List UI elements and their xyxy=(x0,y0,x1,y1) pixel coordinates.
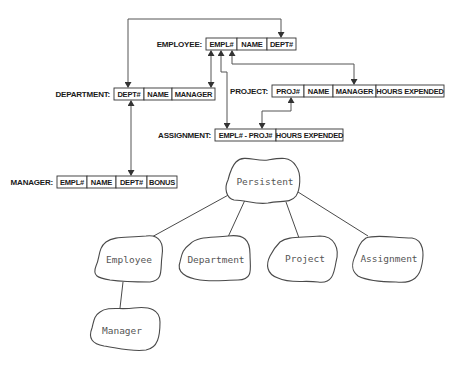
class-label: Manager xyxy=(102,325,142,336)
line-employee-manager xyxy=(120,282,123,308)
object-model-diagram: EMPLOYEE:EMPL#NAMEDEPT#DEPARTMENT:DEPT#N… xyxy=(0,0,457,370)
class-label: Assignment xyxy=(360,253,417,264)
class-node-department[interactable]: Department xyxy=(179,236,250,281)
line-persistent-employee xyxy=(150,193,232,238)
column-name: DEPT# xyxy=(117,90,141,99)
connector-employee-empl-assignment xyxy=(221,51,227,128)
connector-project-proj-assignment xyxy=(262,98,291,128)
column-name: EMPL# xyxy=(209,40,234,49)
class-label: Department xyxy=(187,254,244,265)
table-name-label: EMPLOYEE: xyxy=(157,40,202,49)
connector-dept-fk-employee xyxy=(128,19,281,87)
class-label: Project xyxy=(285,253,325,264)
class-node-persistent[interactable]: Persistent xyxy=(226,158,300,203)
column-name: NAME xyxy=(147,90,168,99)
column-name: PROJ# xyxy=(276,87,301,96)
column-name: DEPT# xyxy=(120,178,144,187)
table-manager[interactable]: MANAGER:EMPL#NAMEDEPT#BONUS xyxy=(11,176,177,188)
column-name: EMPL# - PROJ# xyxy=(219,131,274,140)
column-name: NAME xyxy=(308,87,329,96)
table-name-label: ASSIGNMENT: xyxy=(158,131,211,140)
line-persistent-department xyxy=(228,200,245,237)
table-department[interactable]: DEPARTMENT:DEPT#NAMEMANAGER xyxy=(55,88,215,100)
column-name: BONUS xyxy=(149,178,175,187)
column-name: NAME xyxy=(241,40,262,49)
class-node-assignment[interactable]: Assignment xyxy=(353,236,423,282)
column-name: MANAGER xyxy=(336,87,374,96)
class-node-employee[interactable]: Employee xyxy=(95,236,163,282)
table-name-label: PROJECT: xyxy=(230,87,268,96)
line-persistent-assignment xyxy=(298,192,368,236)
column-name: HOURS EXPENDED xyxy=(376,87,444,96)
class-label: Persistent xyxy=(236,176,293,187)
column-name: MANAGER xyxy=(175,90,213,99)
class-label: Employee xyxy=(106,254,152,265)
column-name: NAME xyxy=(91,178,112,187)
connector-employee-empl-project-manager xyxy=(232,51,354,84)
table-name-label: DEPARTMENT: xyxy=(55,90,110,99)
class-node-manager[interactable]: Manager xyxy=(91,308,161,351)
table-project[interactable]: PROJECT:PROJ#NAMEMANAGERHOURS EXPENDED xyxy=(230,85,445,97)
column-name: EMPL# xyxy=(60,178,85,187)
table-assignment[interactable]: ASSIGNMENT:EMPL# - PROJ#HOURS EXPENDED xyxy=(158,129,344,141)
line-persistent-project xyxy=(286,202,299,238)
column-name: HOURS EXPENDED xyxy=(276,131,344,140)
column-name: DEPT# xyxy=(270,40,294,49)
class-node-project[interactable]: Project xyxy=(268,236,338,282)
table-name-label: MANAGER: xyxy=(11,178,53,187)
table-employee[interactable]: EMPLOYEE:EMPL#NAMEDEPT# xyxy=(157,38,296,50)
relational-tables: EMPLOYEE:EMPL#NAMEDEPT#DEPARTMENT:DEPT#N… xyxy=(11,38,445,188)
